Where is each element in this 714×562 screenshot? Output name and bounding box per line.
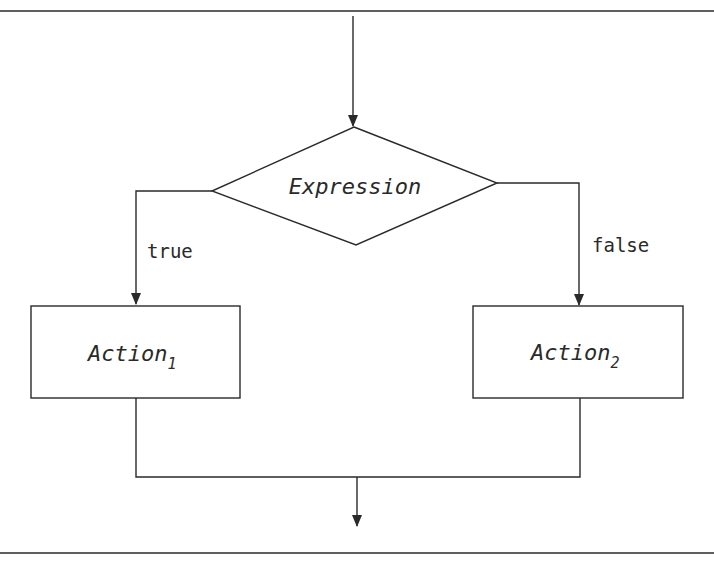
decision-diamond: Expression <box>212 127 497 245</box>
action-2-label: Action <box>529 340 610 365</box>
action-1-box: Action1 <box>31 306 240 398</box>
true-branch: true <box>131 191 212 305</box>
action-1-label: Action <box>86 341 167 366</box>
false-branch: false <box>497 183 649 306</box>
flowchart: Expression true false Action1 Action2 <box>0 0 714 562</box>
false-label: false <box>592 234 649 256</box>
action-1-subscript: 1 <box>167 355 176 373</box>
decision-label: Expression <box>289 174 421 199</box>
action-2-subscript: 2 <box>610 354 619 372</box>
entry-arrow <box>348 16 358 127</box>
true-label: true <box>147 240 193 262</box>
exit-arrow <box>352 477 362 527</box>
action-2-box: Action2 <box>473 306 683 398</box>
merge-connector <box>136 398 580 477</box>
